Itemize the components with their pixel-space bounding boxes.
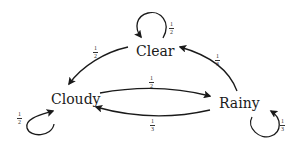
edge-cloudy-rainy xyxy=(100,88,210,96)
edge-clear-cloudy xyxy=(69,47,128,84)
label-rainy-clear: 1 3 xyxy=(215,53,220,67)
node-rainy: Rainy xyxy=(219,96,260,110)
edge-rainy-rainy xyxy=(251,111,280,137)
node-cloudy: Cloudy xyxy=(51,92,101,106)
edge-clear-clear xyxy=(137,13,166,38)
label-rainy-cloudy: 1 3 xyxy=(150,118,155,132)
label-rainy-rainy: 1 3 xyxy=(280,118,285,132)
edge-rainy-clear xyxy=(180,47,237,91)
edge-cloudy-cloudy xyxy=(27,111,54,135)
label-cloudy-cloudy: 1 2 xyxy=(17,111,22,125)
node-clear: Clear xyxy=(136,44,175,58)
label-cloudy-rainy: 1 2 xyxy=(149,75,154,89)
label-clear-cloudy: 1 2 xyxy=(93,45,98,59)
label-clear-clear: 1 2 xyxy=(169,21,174,35)
markov-chain-diagram: Clear Cloudy Rainy 1 2 1 2 1 3 1 2 1 3 1… xyxy=(0,0,306,143)
edge-rainy-cloudy xyxy=(96,107,210,116)
